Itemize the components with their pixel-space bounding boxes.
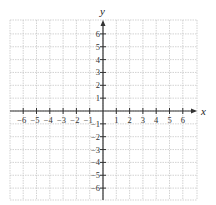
x-axis-arrow-icon xyxy=(191,109,197,114)
x-tick-label: −5 xyxy=(30,115,39,125)
y-tick-label: 5 xyxy=(96,42,100,52)
x-tick-label: −4 xyxy=(44,115,54,125)
x-tick-label: 6 xyxy=(181,115,185,125)
x-tick-label: 5 xyxy=(167,115,171,125)
x-tick-label: 1 xyxy=(114,115,118,125)
x-tick-label: −2 xyxy=(70,115,79,125)
y-tick-label: −4 xyxy=(91,157,101,167)
y-axis-label: y xyxy=(99,5,105,17)
coordinate-plane: −6−5−4−3−2−1123456−6−5−4−3−2−1123456 x y xyxy=(0,0,216,205)
x-tick-label: 2 xyxy=(127,115,131,125)
x-tick-label: −6 xyxy=(17,115,26,125)
y-tick-label: 6 xyxy=(96,29,100,39)
y-tick-label: 2 xyxy=(96,80,100,90)
y-axis-arrow-icon xyxy=(101,20,106,26)
y-tick-label: −3 xyxy=(91,145,100,155)
y-tick-label: −5 xyxy=(91,170,100,180)
y-tick-label: −1 xyxy=(91,119,100,129)
x-tick-label: −3 xyxy=(57,115,66,125)
x-tick-label: 3 xyxy=(141,115,145,125)
x-tick-label: 4 xyxy=(154,115,159,125)
y-tick-label: −6 xyxy=(91,183,100,193)
y-tick-label: 1 xyxy=(96,93,100,103)
y-tick-label: −2 xyxy=(91,132,100,142)
x-axis-label: x xyxy=(200,105,206,117)
y-tick-label: 3 xyxy=(96,67,100,77)
